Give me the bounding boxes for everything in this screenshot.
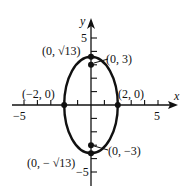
x-tick-label-neg5: −5 (13, 109, 26, 123)
label-bottom-focus: (0, −3) (108, 144, 141, 158)
y-tick-label-pos5: 5 (81, 31, 87, 45)
y-axis-label: y (79, 14, 86, 28)
point-bottom-vertex (88, 150, 94, 156)
point-bottom-focus (88, 142, 94, 148)
ellipse-diagram: x −5 5 y 5 −5 (0, 0, 188, 188)
label-left-covertex: (−2, 0) (22, 87, 55, 101)
label-bottom-vertex: (0, − √13) (27, 156, 75, 170)
point-top-vertex (88, 54, 94, 60)
point-top-focus (88, 62, 94, 68)
point-right-covertex (115, 102, 121, 108)
x-tick-label-pos5: 5 (154, 109, 160, 123)
label-top-vertex: (0, √13) (42, 44, 81, 58)
point-left-covertex (61, 102, 67, 108)
label-right-covertex: (2, 0) (118, 87, 144, 101)
label-top-focus: (0, 3) (106, 52, 132, 66)
y-tick-label-neg5: −5 (76, 165, 89, 179)
y-axis: y 5 −5 (76, 14, 97, 186)
x-axis-label: x (173, 89, 180, 103)
